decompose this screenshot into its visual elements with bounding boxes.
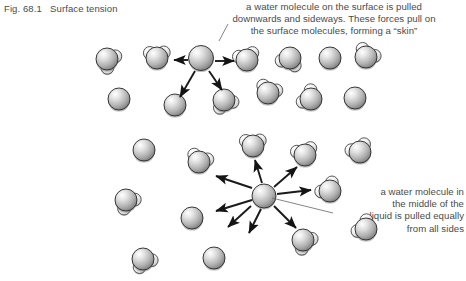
water-molecule [188, 148, 214, 174]
water-molecule [108, 88, 130, 112]
water-molecule [143, 46, 170, 71]
water-molecule [292, 229, 318, 256]
water-molecule [275, 47, 301, 73]
surface-annotation-leader [219, 24, 228, 41]
surface-water-molecule [189, 46, 214, 73]
interior-water-molecule [252, 184, 276, 210]
water-molecule [315, 176, 341, 204]
water-molecule [344, 87, 366, 111]
water-molecule [181, 207, 203, 231]
water-molecule [213, 89, 239, 115]
water-molecule [319, 47, 341, 71]
surface-force-arrow [209, 71, 222, 90]
water-molecule [257, 79, 283, 105]
interior-force-arrow [274, 206, 296, 228]
interior-force-arrow [216, 176, 252, 188]
water-molecule [133, 139, 155, 163]
water-molecule [132, 248, 158, 275]
water-molecule [296, 84, 322, 112]
interior-force-arrow [249, 209, 261, 233]
water-molecule [232, 47, 258, 73]
surface-tension-figure: Fig. 68.1 Surface tension a water molecu… [0, 0, 466, 281]
surface-force-arrow [180, 71, 195, 97]
water-molecule [355, 42, 381, 69]
diagram-illustration-layer [0, 0, 466, 281]
interior-force-arrow [277, 190, 311, 194]
interior-force-arrow [228, 206, 251, 227]
water-molecule [290, 142, 316, 168]
interior-force-arrow [255, 160, 262, 183]
water-molecule [345, 138, 371, 165]
water-molecule [203, 247, 225, 271]
water-molecules-group [96, 42, 381, 274]
water-molecule [164, 94, 186, 118]
water-molecule [96, 48, 122, 75]
water-molecule [239, 134, 266, 159]
water-molecule [115, 189, 141, 216]
interior-force-arrow [274, 167, 297, 187]
water-molecule [351, 214, 377, 242]
